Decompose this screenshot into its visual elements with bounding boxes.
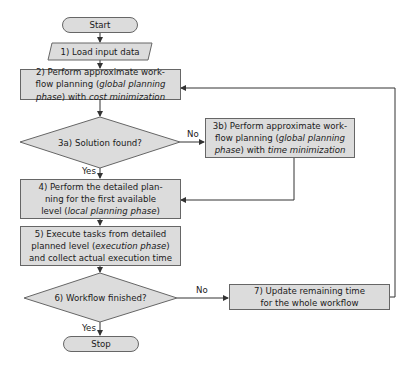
global-planning-time-node: 3b) Perform approximate work- flow plann… (205, 118, 355, 158)
n3b-line2: flow planning (global planning (215, 132, 345, 144)
decision-6-label: 6) Workflow finished? (54, 293, 146, 303)
decision-3a-label: 3a) Solution found? (58, 138, 142, 148)
load-input-node: 1) Load input data (48, 43, 152, 60)
update-time-node: 7) Update remaining time for the whole w… (229, 284, 390, 310)
n2-line1: 2) Perform approximate work- (36, 66, 165, 78)
edge-label-3a-no: No (187, 129, 199, 139)
global-planning-cost-node: 2) Perform approximate work- flow planni… (20, 69, 181, 100)
n4-line2: ning for the first available (45, 193, 156, 205)
n5-line1: 5) Execute tasks from detailed (35, 228, 167, 240)
load-input-label: 1) Load input data (60, 47, 139, 57)
n7-line1: 7) Update remaining time (254, 285, 365, 297)
edge-label-3a-yes: Yes (82, 166, 96, 176)
decision-6-node: 6) Workflow finished? (24, 273, 177, 322)
n3b-line1: 3b) Perform approximate work- (213, 120, 347, 132)
local-planning-node: 4) Perform the detailed plan- ning for t… (20, 179, 181, 219)
stop-label: Stop (91, 338, 111, 350)
edge-label-6-no: No (196, 285, 208, 295)
n5-line3: and collect actual execution time (29, 252, 172, 264)
n2-line3: phase) with cost minimization (36, 91, 165, 103)
stop-node: Stop (63, 336, 139, 352)
decision-3a-node: 3a) Solution found? (20, 117, 180, 168)
n2-line2: flow planning (global planning (35, 78, 165, 90)
n3b-line3: phase) with time minimization (215, 144, 346, 156)
start-node: Start (62, 17, 138, 33)
n5-line2: planned level (execution phase) (31, 240, 169, 252)
n4-line3: level (local planning phase) (41, 205, 160, 217)
n7-line2: for the whole workflow (260, 297, 358, 309)
start-label: Start (90, 19, 111, 31)
execution-node: 5) Execute tasks from detailed planned l… (20, 226, 181, 266)
edge-3b-to-4 (181, 158, 294, 200)
n4-line1: 4) Perform the detailed plan- (38, 181, 162, 193)
edge-label-6-yes: Yes (82, 323, 96, 333)
